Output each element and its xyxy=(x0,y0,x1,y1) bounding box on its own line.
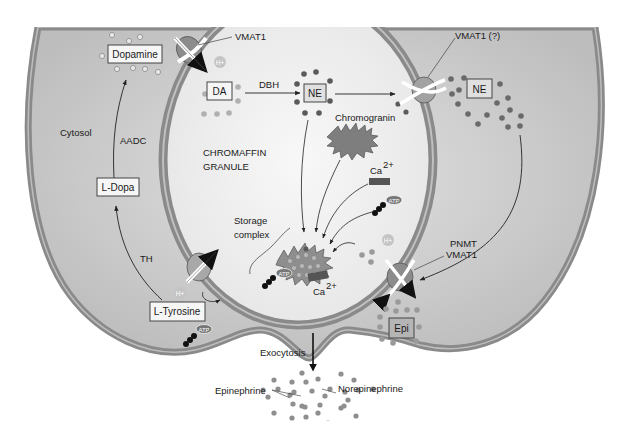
released-catecholamines xyxy=(260,403,374,421)
svg-text:Ca: Ca xyxy=(370,165,383,176)
vmat1-right-bottom-label: VMAT1 xyxy=(446,249,477,260)
l-dopa-node: L-Dopa xyxy=(97,178,139,196)
h-plus-top: H+ xyxy=(214,56,226,68)
exocytosis-label: Exocytosis xyxy=(260,347,306,358)
ne-cytosol-label: NE xyxy=(473,84,487,95)
svg-text:ATP: ATP xyxy=(198,327,209,333)
pnmt-label: PNMT xyxy=(450,238,477,249)
dbh-label: DBH xyxy=(259,79,279,90)
aadc-label: AADC xyxy=(120,135,147,146)
chromaffin-cell-diagram: Cytosol CHROMAFFIN GRANULE Dopamine AADC… xyxy=(0,0,620,421)
epinephrine-label: Epinephrine xyxy=(215,385,266,396)
dopamine-label: Dopamine xyxy=(112,49,158,60)
storage-complex-label-line2: complex xyxy=(234,229,270,240)
h-plus-left: H+ xyxy=(174,287,186,299)
l-tyrosine-label: L-Tyrosine xyxy=(154,306,201,317)
calcium-bottom-label: Ca xyxy=(313,286,326,297)
svg-text:H+: H+ xyxy=(384,237,393,244)
ne-granule-label: NE xyxy=(308,88,322,99)
calcium-bottom-sup: 2+ xyxy=(326,280,337,291)
norepinephrine-label: Norepinephrine xyxy=(338,383,403,394)
chromogranin-label: Chromogranin xyxy=(335,112,395,123)
svg-text:H+: H+ xyxy=(176,290,185,297)
svg-text:H+: H+ xyxy=(216,59,225,66)
th-label: TH xyxy=(140,253,153,264)
vmat1-top-label: VMAT1 xyxy=(235,31,266,42)
granule-label-line2: GRANULE xyxy=(203,161,249,172)
epi-label: Epi xyxy=(394,323,408,334)
cytosol-label: Cytosol xyxy=(60,127,92,138)
svg-text:ATP: ATP xyxy=(388,198,399,204)
vmat1-right-top-label: VMAT1 (?) xyxy=(455,30,500,41)
svg-text:2+: 2+ xyxy=(383,159,394,170)
l-tyrosine-node: L-Tyrosine xyxy=(150,302,205,321)
h-plus-right: H+ xyxy=(382,234,394,246)
svg-text:ATP: ATP xyxy=(278,271,289,277)
granule-label-line1: CHROMAFFIN xyxy=(203,147,266,158)
da-label: DA xyxy=(213,86,227,97)
l-dopa-label: L-Dopa xyxy=(102,182,135,193)
storage-complex-label-line1: Storage xyxy=(234,215,267,226)
